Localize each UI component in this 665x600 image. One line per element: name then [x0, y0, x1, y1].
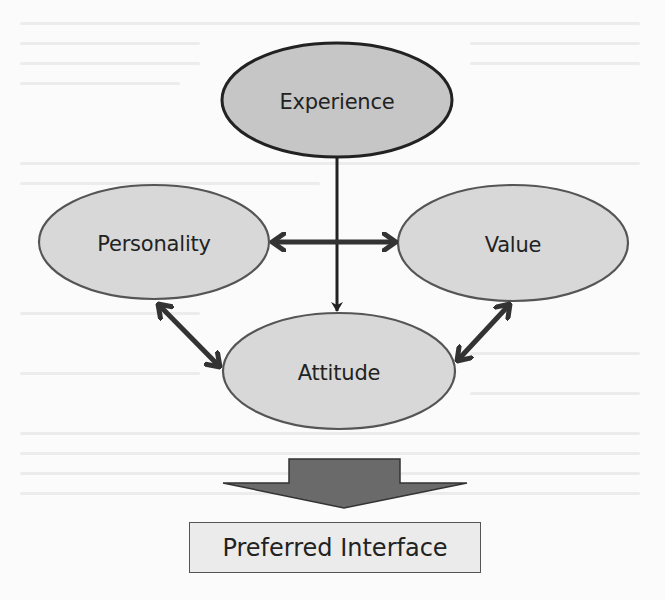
edge-personality-attitude	[158, 304, 220, 367]
edge-value-attitude	[457, 304, 510, 361]
node-experience-label: Experience	[279, 90, 394, 114]
output-block-arrow	[223, 459, 467, 508]
node-personality-label: Personality	[97, 232, 211, 256]
node-value-label: Value	[485, 233, 542, 257]
preferred-interface-label: Preferred Interface	[222, 534, 447, 562]
preferred-interface-box: Preferred Interface	[189, 522, 481, 573]
node-attitude-label: Attitude	[298, 361, 381, 385]
